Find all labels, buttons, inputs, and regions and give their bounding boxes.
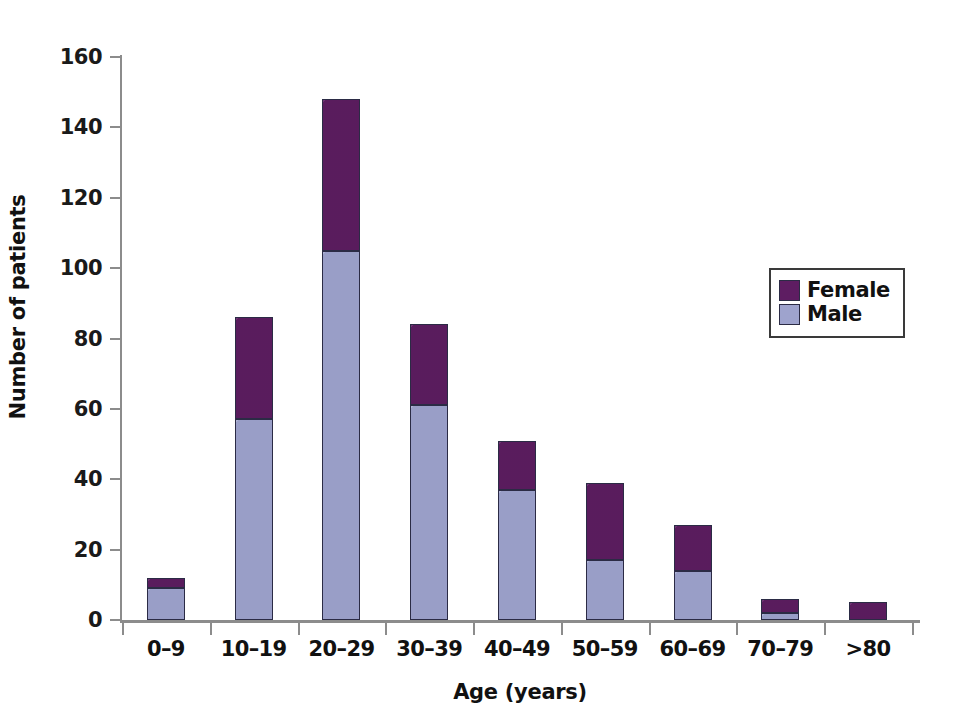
bar-stack — [761, 57, 799, 620]
bar-segment-male — [147, 588, 185, 620]
bar-stack — [586, 57, 624, 620]
bar-stack — [147, 57, 185, 620]
x-axis-tick — [473, 622, 475, 635]
legend-item-female: Female — [779, 280, 890, 301]
legend-item-male: Male — [779, 304, 890, 325]
plot-area — [120, 57, 910, 620]
x-axis-category-label: 40–49 — [484, 637, 550, 661]
bar-segment-female — [410, 324, 448, 405]
y-axis-tick-label: 60 — [32, 397, 102, 421]
legend-swatch-male-icon — [779, 304, 800, 325]
y-axis-tick-label: 100 — [32, 256, 102, 280]
x-axis-tick — [824, 622, 826, 635]
y-axis-tick-label: 120 — [32, 186, 102, 210]
x-axis-category-label: 70–79 — [747, 637, 813, 661]
bar-segment-male — [322, 251, 360, 620]
x-axis-tick — [298, 622, 300, 635]
bar-segment-male — [761, 613, 799, 620]
x-axis-tick — [385, 622, 387, 635]
y-axis-tick-label: 40 — [32, 467, 102, 491]
bar-segment-male — [498, 490, 536, 620]
x-axis-tick — [649, 622, 651, 635]
bar-stack — [410, 57, 448, 620]
bar-segment-female — [147, 578, 185, 589]
x-axis-tick — [912, 622, 914, 635]
y-axis-tick-label: 140 — [32, 115, 102, 139]
x-axis-category-label: >80 — [846, 637, 891, 661]
bar-segment-female — [586, 483, 624, 560]
x-axis-category-label: 50–59 — [572, 637, 638, 661]
x-axis-tick — [210, 622, 212, 635]
y-axis-tick-label: 0 — [32, 608, 102, 632]
bar-stack — [674, 57, 712, 620]
bar-segment-female — [498, 441, 536, 490]
x-axis-category-label: 0–9 — [147, 637, 185, 661]
legend-label-male: Male — [807, 304, 862, 325]
bar-segment-male — [410, 405, 448, 620]
bar-segment-male — [235, 419, 273, 620]
bar-segment-female — [761, 599, 799, 613]
y-axis-title: Number of patients — [6, 97, 30, 517]
legend: Female Male — [769, 268, 905, 338]
x-axis-title: Age (years) — [120, 680, 920, 704]
x-axis-tick — [736, 622, 738, 635]
bar-stack — [498, 57, 536, 620]
chart-figure: 020406080100120140160 Number of patients… — [0, 0, 959, 720]
y-axis-tick-label: 80 — [32, 327, 102, 351]
bar-stack — [849, 57, 887, 620]
y-axis-tick-label: 160 — [32, 45, 102, 69]
x-axis-tick — [561, 622, 563, 635]
bar-segment-male — [586, 560, 624, 620]
x-axis-category-label: 20–29 — [308, 637, 374, 661]
bar-segment-female — [849, 602, 887, 620]
legend-label-female: Female — [807, 280, 890, 301]
x-axis-category-label: 30–39 — [396, 637, 462, 661]
y-axis-tick-label: 20 — [32, 538, 102, 562]
bar-segment-female — [674, 525, 712, 571]
bar-segment-female — [235, 317, 273, 419]
x-axis-tick — [122, 622, 124, 635]
x-axis-line — [120, 620, 920, 623]
bar-stack — [322, 57, 360, 620]
bar-segment-male — [674, 571, 712, 620]
legend-swatch-female-icon — [779, 280, 800, 301]
x-axis-category-label: 60–69 — [660, 637, 726, 661]
x-axis-category-label: 10–19 — [221, 637, 287, 661]
bar-stack — [235, 57, 273, 620]
bar-segment-female — [322, 99, 360, 250]
